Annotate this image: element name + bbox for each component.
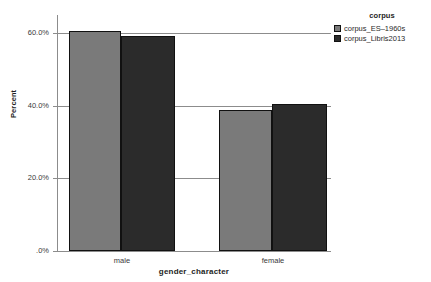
y-axis-tick bbox=[53, 33, 57, 34]
x-axis-line bbox=[57, 251, 331, 252]
x-axis-title: gender_character bbox=[57, 267, 331, 276]
y-axis-tick-label: .0% bbox=[0, 246, 49, 255]
y-axis-tick bbox=[53, 251, 57, 252]
y-axis-tick bbox=[53, 106, 57, 107]
legend-title: corpus bbox=[331, 11, 431, 23]
bar bbox=[121, 36, 175, 251]
legend-item[interactable]: corpus_ES–1960s bbox=[331, 23, 431, 33]
bar bbox=[69, 31, 121, 251]
legend-item-label: corpus_ES–1960s bbox=[344, 24, 405, 33]
legend-swatch-icon bbox=[334, 25, 341, 32]
legend-item-label: corpus_Libris2013 bbox=[344, 34, 405, 43]
legend-item[interactable]: corpus_Libris2013 bbox=[331, 33, 431, 43]
bar bbox=[272, 104, 327, 251]
y-axis-tick-label: 20.0% bbox=[0, 173, 49, 182]
x-axis-category-label: male bbox=[82, 256, 162, 265]
y-axis-tick bbox=[53, 178, 57, 179]
x-axis-category-label: female bbox=[233, 256, 313, 265]
y-axis-tick-label: 40.0% bbox=[0, 101, 49, 110]
legend-swatch-icon bbox=[334, 35, 341, 42]
y-axis-line bbox=[57, 15, 58, 252]
legend-items: corpus_ES–1960scorpus_Libris2013 bbox=[331, 23, 431, 43]
plot-area bbox=[57, 15, 331, 252]
y-axis-tick-label: 60.0% bbox=[0, 28, 49, 37]
bar bbox=[219, 110, 272, 251]
bar-chart: Percent 60.0%40.0%20.0%.0% malefemale ge… bbox=[0, 0, 431, 282]
legend: corpus corpus_ES–1960scorpus_Libris2013 bbox=[331, 11, 431, 43]
